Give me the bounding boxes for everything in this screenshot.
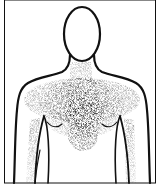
anatomical-illustration: Chest pain radiation pattern [0, 0, 161, 186]
torso-figure [0, 0, 161, 186]
